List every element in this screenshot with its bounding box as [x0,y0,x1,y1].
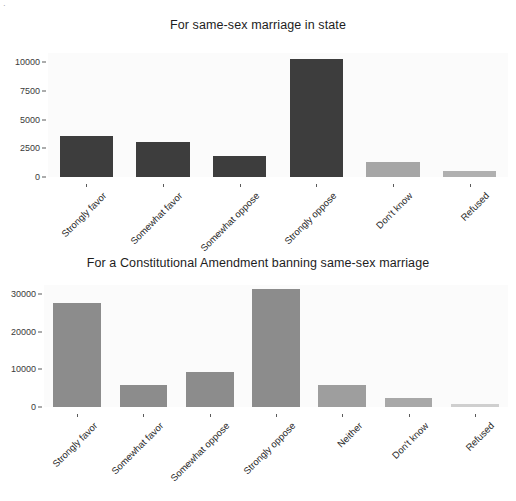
x-axis-label-text: Neither [335,420,364,449]
x-axis-tick [409,414,410,417]
x-axis-tick [475,414,476,417]
bar [186,372,234,407]
x-axis-tick [210,414,211,417]
y-axis-tick-label: 0 [31,402,44,412]
x-axis-tick [240,184,241,187]
bar [120,385,168,407]
x-axis-label-text: Strongly oppose [241,420,297,476]
x-axis-tick [342,414,343,417]
y-axis-tick-label: 20000 [11,327,44,337]
bar [443,171,497,177]
bar [451,404,499,407]
x-axis-tick [316,184,317,187]
y-axis-tick-label: 10000 [15,57,48,67]
x-axis-label-text: Somewhat oppose [168,420,231,483]
x-axis-label-text: Strongly favor [59,190,108,239]
x-axis-tick [393,184,394,187]
y-axis-tick-label: 10000 [11,364,44,374]
x-axis-label-text: Somewhat favor [109,420,165,476]
x-axis-tick [77,414,78,417]
x-axis-label-text: Strongly favor [50,420,99,469]
bar [213,156,267,177]
chart-title-bottom: For a Constitutional Amendment banning s… [0,256,516,270]
y-axis-tick-label: 30000 [11,289,44,299]
plot-area-top: 025005000750010000 Strongly favorSomewha… [48,53,508,177]
bar [53,303,101,407]
x-axis-label-text: Don't know [374,190,415,231]
chart-panel-top: For same-sex marriage in state 025005000… [0,0,516,252]
x-axis-tick [86,184,87,187]
bar [136,142,190,177]
chart-title-top: For same-sex marriage in state [0,18,516,32]
figure-canvas: · For same-sex marriage in state 0250050… [0,0,516,501]
bar [366,162,420,178]
y-axis-tick-label: 5000 [20,115,48,125]
y-axis-tick-label: 2500 [20,143,48,153]
x-axis-label-text: Don't know [390,420,431,461]
x-axis-tick [143,414,144,417]
x-axis-tick [470,184,471,187]
x-axis-label-text: Somewhat oppose [198,190,261,253]
x-axis-label-text: Strongly oppose [282,190,338,246]
bar [60,136,114,177]
y-axis-tick-label: 7500 [20,86,48,96]
x-axis-label-text: Refused [464,420,497,453]
x-axis-tick [163,184,164,187]
x-axis-label-text: Somewhat favor [128,190,184,246]
bar [290,59,344,177]
bar [385,398,433,407]
plot-area-bottom: 0100002000030000 Strongly favorSomewhat … [44,285,508,407]
bar [318,385,366,407]
bar [252,289,300,407]
y-axis-tick-label: 0 [35,172,48,182]
x-axis-label-text: Refused [459,190,492,223]
x-axis-tick [276,414,277,417]
chart-panel-bottom: For a Constitutional Amendment banning s… [0,252,516,501]
